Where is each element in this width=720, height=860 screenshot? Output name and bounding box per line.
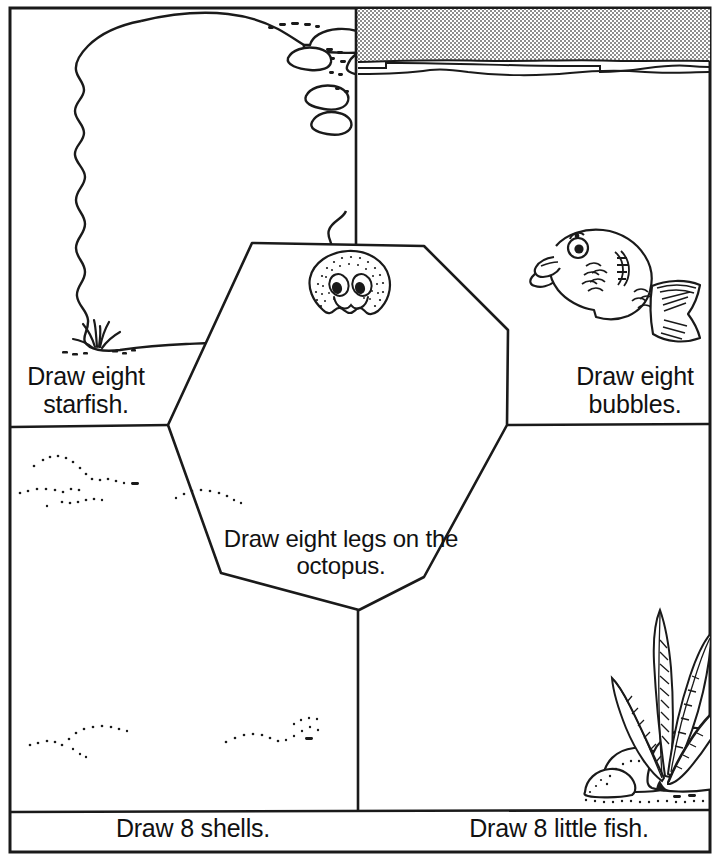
octopus-head-icon <box>310 251 390 314</box>
cartoon-fish-icon <box>530 230 700 342</box>
divider-horizontal-bottom <box>11 810 709 812</box>
worksheet-page: Draw eight starfish. Draw eight bubbles.… <box>0 0 720 860</box>
instruction-starfish: Draw eight starfish. <box>6 362 166 418</box>
seaweed-plant-icon <box>584 610 719 803</box>
divider-horizontal-right <box>507 424 709 425</box>
water-surface-icon <box>357 9 710 75</box>
instruction-octopus: Draw eight legs on the octopus. <box>198 526 484 580</box>
instruction-little-fish: Draw 8 little fish. <box>414 814 704 842</box>
divider-horizontal-left <box>11 425 170 427</box>
instruction-bubbles: Draw eight bubbles. <box>552 362 718 418</box>
worksheet-artwork <box>0 0 720 860</box>
instruction-shells: Draw 8 shells. <box>78 814 308 842</box>
